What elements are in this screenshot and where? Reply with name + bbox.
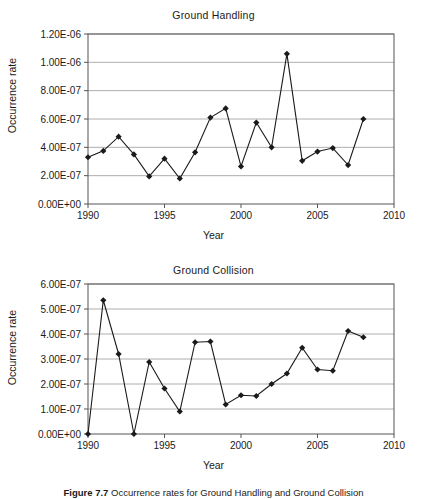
y-tick-label: 0.00E+00	[38, 199, 82, 210]
data-point-marker	[360, 334, 366, 340]
y-tick-label: 5.00E-07	[40, 304, 81, 315]
data-point-marker	[223, 105, 229, 111]
data-point-marker	[85, 154, 91, 160]
y-tick-label: 4.00E-07	[40, 142, 81, 153]
y-tick-label: 8.00E-07	[40, 85, 81, 96]
x-tick-label: 2005	[306, 440, 329, 451]
data-point-marker	[299, 158, 305, 164]
x-tick-label: 2010	[383, 210, 406, 221]
chart-ground-handling: Ground Handling Occurrence rate Year 0.0…	[0, 0, 427, 250]
data-point-marker	[284, 51, 290, 57]
x-tick-label: 2000	[230, 440, 253, 451]
data-point-marker	[253, 119, 259, 125]
figure-occurrence-rates: Ground Handling Occurrence rate Year 0.0…	[0, 0, 427, 499]
y-tick-label: 4.00E-07	[40, 329, 81, 340]
figure-caption-text: Occurrence rates for Ground Handling and…	[111, 487, 363, 498]
data-point-marker	[161, 385, 167, 391]
y-tick-label: 6.00E-07	[40, 114, 81, 125]
y-tick-label: 1.00E-06	[40, 57, 81, 68]
chart-ground-collision: Ground Collision Occurrence rate Year 0.…	[0, 255, 427, 480]
data-point-marker	[223, 401, 229, 407]
y-tick-label: 1.20E-06	[40, 29, 81, 40]
series-line	[88, 300, 363, 434]
y-tick-label: 0.00E+00	[38, 429, 82, 440]
plot-area: 0.00E+002.00E-074.00E-076.00E-078.00E-07…	[0, 0, 427, 250]
data-point-marker	[116, 351, 122, 357]
data-point-marker	[238, 163, 244, 169]
series-line	[88, 54, 363, 179]
data-point-marker	[238, 392, 244, 398]
data-point-marker	[85, 431, 91, 437]
data-point-marker	[269, 144, 275, 150]
data-point-marker	[100, 297, 106, 303]
data-point-marker	[314, 148, 320, 154]
figure-caption-label: Figure 7.7	[64, 487, 109, 498]
data-point-marker	[192, 149, 198, 155]
y-tick-label: 2.00E-07	[40, 379, 81, 390]
plot-area: 0.00E+001.00E-072.00E-073.00E-074.00E-07…	[0, 255, 427, 480]
data-point-marker	[131, 431, 137, 437]
data-point-marker	[146, 359, 152, 365]
y-tick-label: 1.00E-07	[40, 404, 81, 415]
data-point-marker	[330, 368, 336, 374]
data-point-marker	[284, 370, 290, 376]
x-tick-label: 1990	[77, 210, 100, 221]
data-point-marker	[207, 114, 213, 120]
y-tick-label: 3.00E-07	[40, 354, 81, 365]
figure-caption: Figure 7.7 Occurrence rates for Ground H…	[0, 487, 427, 499]
x-tick-label: 1995	[153, 440, 176, 451]
data-point-marker	[345, 328, 351, 334]
y-tick-label: 6.00E-07	[40, 279, 81, 290]
data-point-marker	[192, 339, 198, 345]
x-tick-label: 1995	[153, 210, 176, 221]
x-tick-label: 2010	[383, 440, 406, 451]
data-point-marker	[207, 338, 213, 344]
x-tick-label: 2005	[306, 210, 329, 221]
y-tick-label: 2.00E-07	[40, 170, 81, 181]
x-tick-label: 1990	[77, 440, 100, 451]
data-point-marker	[360, 116, 366, 122]
x-tick-label: 2000	[230, 210, 253, 221]
